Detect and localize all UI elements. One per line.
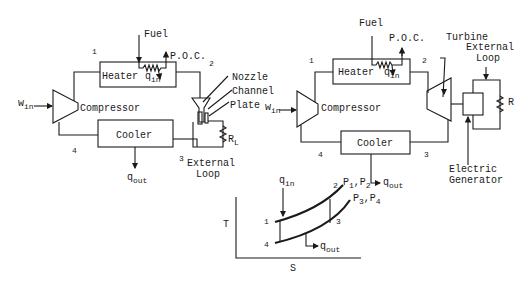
left-state-3: 3 bbox=[176, 153, 187, 164]
right-external-label: External bbox=[466, 43, 514, 53]
diagram-canvas: Fuel P.O.C. Heater qin Compressor win Co… bbox=[0, 0, 530, 284]
left-fuel-label: Fuel bbox=[144, 30, 168, 40]
ts-qin-label: qin bbox=[279, 176, 295, 186]
ts-qout-label: qout bbox=[320, 242, 340, 252]
nozzle-label: Nozzle bbox=[232, 73, 268, 83]
left-state-2: 2 bbox=[206, 58, 217, 69]
ts-x-label: S bbox=[290, 264, 296, 274]
ts-state-3: 3 bbox=[333, 216, 344, 227]
ts-high-pressure-label: P1,P2 bbox=[343, 178, 371, 188]
right-cooler-label: Cooler bbox=[357, 139, 393, 149]
right-state-3: 3 bbox=[421, 149, 432, 160]
right-state-4: 4 bbox=[315, 149, 326, 160]
left-compressor-label: Compressor bbox=[80, 104, 140, 114]
right-heater-label: Heater bbox=[338, 68, 374, 78]
left-qout-label: qout bbox=[127, 173, 147, 183]
left-cooler-label: Cooler bbox=[116, 131, 152, 141]
right-poc-label: P.O.C. bbox=[389, 34, 425, 44]
ts-state-1: 1 bbox=[261, 216, 272, 227]
ts-y-label: T bbox=[223, 220, 229, 230]
generator-label: Generator bbox=[449, 176, 503, 186]
right-win-label: win bbox=[265, 103, 281, 113]
channel-label: Channel bbox=[232, 87, 274, 97]
right-r-label: R bbox=[508, 98, 514, 108]
right-state-2: 2 bbox=[419, 55, 430, 66]
right-qin-label: qin bbox=[384, 68, 400, 78]
right-loop-label: Loop bbox=[476, 54, 500, 64]
right-compressor-label: Compressor bbox=[321, 104, 381, 114]
right-qout-label: qout bbox=[383, 178, 403, 188]
left-state-1: 1 bbox=[89, 46, 100, 57]
left-state-4: 4 bbox=[69, 145, 80, 156]
ts-state-2: 2 bbox=[330, 180, 341, 191]
left-heater-label: Heater bbox=[102, 72, 138, 82]
left-poc-label: P.O.C. bbox=[170, 52, 206, 62]
left-win-label: win bbox=[18, 99, 34, 109]
plate-label: Plate bbox=[230, 101, 260, 111]
ts-state-4: 4 bbox=[261, 239, 272, 250]
right-state-1: 1 bbox=[306, 55, 317, 66]
ts-axes bbox=[236, 197, 361, 258]
ts-low-pressure-label: P3,P4 bbox=[353, 194, 381, 204]
right-turbine-shape bbox=[427, 78, 451, 121]
generator-box bbox=[463, 93, 483, 115]
left-nozzle-shape bbox=[192, 98, 210, 122]
electric-label: Electric bbox=[449, 165, 497, 175]
left-qin-label: qin bbox=[145, 72, 161, 82]
left-external-label: External bbox=[187, 159, 235, 169]
rl-label: RL bbox=[228, 135, 239, 145]
right-fuel-label: Fuel bbox=[359, 19, 383, 29]
left-loop-label: Loop bbox=[196, 170, 220, 180]
